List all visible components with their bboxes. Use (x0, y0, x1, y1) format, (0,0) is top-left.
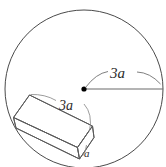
radius-arc-right (137, 72, 161, 84)
figure-canvas (0, 0, 166, 167)
prism-depth-label: a (84, 148, 90, 159)
radius-label: 3a (110, 66, 125, 81)
geometry-figure: 3a 3a a (0, 0, 166, 167)
prism-length-label: 3a (59, 99, 73, 113)
radius-arc-left (86, 72, 109, 88)
